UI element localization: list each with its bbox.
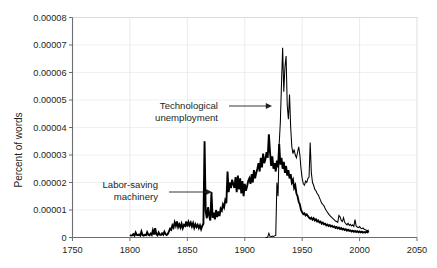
annotation-line-1: Technological — [160, 100, 218, 111]
y-tick-label: 0.00002 — [33, 178, 66, 188]
x-tick-label: 1800 — [120, 245, 140, 255]
y-tick-label: 0.00007 — [33, 40, 66, 50]
y-axis-title: Percent of words — [13, 112, 24, 187]
annotation-line-2: machinery — [114, 191, 158, 202]
x-tick-label: 2050 — [407, 245, 427, 255]
x-tick-label: 1950 — [292, 245, 312, 255]
y-tick-label: 0.00008 — [33, 13, 66, 23]
annotation-line-2: unemployment — [155, 112, 218, 123]
x-tick-label: 1900 — [235, 245, 255, 255]
ngram-chart: 00.000010.000020.000030.000040.000050.00… — [0, 0, 437, 268]
x-tick-label: 1750 — [62, 245, 82, 255]
y-tick-label: 0.00004 — [33, 123, 66, 133]
y-tick-label: 0.00006 — [33, 68, 66, 78]
y-tick-label: 0.00001 — [33, 205, 66, 215]
annotation-label: Technologicalunemployment — [155, 100, 218, 123]
y-tick-label: 0 — [61, 233, 66, 243]
x-tick-label: 2000 — [349, 245, 369, 255]
x-tick-label: 1850 — [177, 245, 197, 255]
annotation-line-1: Labor-saving — [103, 179, 158, 190]
y-tick-label: 0.00005 — [33, 95, 66, 105]
y-tick-label: 0.00003 — [33, 150, 66, 160]
y-axis-tick-labels: 00.000010.000020.000030.000040.000050.00… — [33, 13, 66, 243]
chart-canvas: 00.000010.000020.000030.000040.000050.00… — [0, 0, 437, 268]
